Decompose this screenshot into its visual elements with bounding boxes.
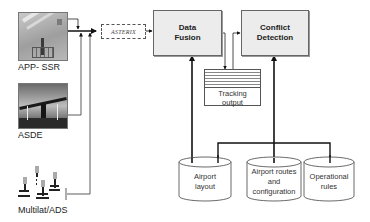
data-fusion-box: Data Fusion [153, 10, 222, 56]
source-label-multilat: Multilat/ADS [18, 205, 68, 215]
operational-rules-line1: Operational [304, 172, 354, 182]
airport-layout-line2: layout [179, 182, 231, 192]
database-operational-rules: Operational rules [304, 172, 354, 192]
conflict-detection-line1: Conflict [257, 23, 293, 33]
tracking-output-stripes [205, 70, 260, 88]
operational-rules-line2: rules [304, 182, 354, 192]
asterix-label: ASTERIX [111, 29, 136, 35]
tracking-output-line1: Tracking [205, 89, 260, 98]
database-airport-routes: Airport routes and configuration [247, 167, 301, 197]
tracking-output-line2: output [205, 98, 260, 107]
airport-routes-line1: Airport routes [247, 167, 301, 177]
airport-routes-line2: and [247, 177, 301, 187]
tracking-output-box: Tracking output [204, 69, 261, 106]
database-airport-layout: Airport layout [179, 172, 231, 192]
conflict-detection-box: Conflict Detection [241, 10, 309, 56]
airport-layout-line1: Airport [179, 172, 231, 182]
conflict-detection-line2: Detection [257, 33, 293, 43]
asterix-format-box: ASTERIX [101, 24, 146, 39]
data-fusion-line1: Data [174, 23, 200, 33]
airport-routes-line3: configuration [247, 187, 301, 197]
data-fusion-line2: Fusion [174, 33, 200, 43]
